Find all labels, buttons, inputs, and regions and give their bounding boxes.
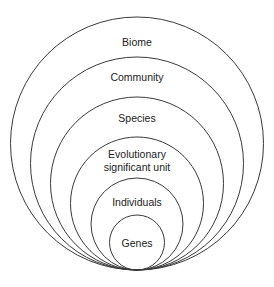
nested-circles-diagram: Biome Community Species Evolutionary sig…: [0, 0, 274, 287]
circle-genes: Genes: [110, 215, 165, 270]
label-biome: Biome: [122, 36, 152, 48]
label-community: Community: [110, 71, 164, 83]
label-esu-line1: Evolutionary: [108, 148, 167, 160]
label-esu-line2: significant unit: [104, 161, 171, 173]
label-species: Species: [118, 112, 155, 124]
label-genes: Genes: [122, 237, 153, 249]
label-individuals: Individuals: [112, 196, 162, 208]
circle-biome: Biome: [11, 17, 264, 270]
circle-individuals: Individuals: [91, 178, 183, 270]
